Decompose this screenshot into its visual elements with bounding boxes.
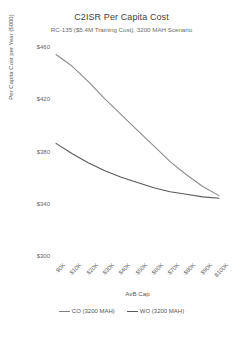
chart-title: C2ISR Per Capita Cost	[0, 12, 243, 22]
y-tick-label: $420	[20, 96, 50, 102]
chart-legend: CO (3200 MAH) WO (3200 MAH)	[0, 308, 243, 314]
y-tick-label: $300	[20, 253, 50, 259]
series-line-wo	[56, 143, 219, 198]
legend-entry-co[interactable]: CO (3200 MAH)	[59, 308, 115, 314]
legend-label-wo: WO (3200 MAH)	[140, 308, 184, 314]
y-axis-title: Per Capita Cost per Year ($000)	[8, 2, 20, 112]
legend-label-co: CO (3200 MAH)	[72, 308, 115, 314]
y-tick-label: $340	[20, 201, 50, 207]
x-axis-title: AvB Cap	[55, 290, 220, 297]
legend-line-icon-wo	[127, 311, 138, 312]
legend-line-icon-co	[59, 311, 70, 312]
legend-entry-wo[interactable]: WO (3200 MAH)	[127, 308, 184, 314]
series-line-co	[56, 55, 219, 196]
y-tick-label: $460	[20, 44, 50, 50]
chart-subtitle: RC-135 ($5.4M Training Cost), 3200 MAH S…	[0, 26, 243, 33]
plot-area	[0, 0, 243, 338]
y-tick-label: $380	[20, 149, 50, 155]
chart-container: C2ISR Per Capita Cost RC-135 ($5.4M Trai…	[0, 0, 243, 338]
